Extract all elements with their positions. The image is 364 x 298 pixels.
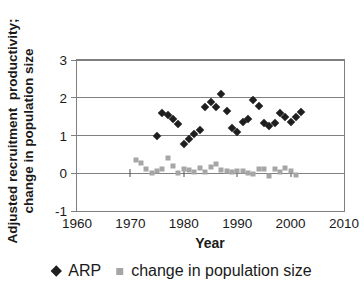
y-axis-tick	[71, 97, 76, 98]
population-point	[219, 168, 224, 173]
population-point	[165, 156, 170, 161]
x-tick-label: 2010	[329, 216, 359, 231]
population-point	[203, 170, 208, 175]
arp-point	[153, 131, 161, 139]
gridline-y3	[77, 60, 344, 61]
y-axis-title-line1: Adjusted recruitment productivity;	[5, 3, 21, 259]
population-point	[176, 171, 181, 176]
gridline-y0	[77, 173, 344, 174]
population-point	[283, 165, 288, 170]
legend-item-population: change in population size	[116, 262, 312, 280]
population-point	[256, 167, 261, 172]
x-tick-label: 2000	[276, 216, 306, 231]
arp-diamond-icon	[51, 265, 62, 276]
y-axis-tick	[71, 60, 76, 61]
population-square-icon	[116, 268, 123, 275]
arp-point	[254, 102, 262, 110]
x-tick-label: 1990	[222, 216, 252, 231]
legend-label-population: change in population size	[131, 262, 312, 280]
gridline-y1	[77, 135, 344, 136]
arp-point	[222, 107, 230, 115]
population-point	[160, 167, 165, 172]
y-axis-tick	[71, 173, 76, 174]
population-point	[267, 174, 272, 179]
x-tick-label: 1960	[62, 216, 92, 231]
x-axis-cross-tick	[130, 169, 131, 177]
population-point	[192, 169, 197, 174]
population-point	[288, 168, 293, 173]
population-point	[139, 160, 144, 165]
x-axis-title: Year	[195, 235, 225, 251]
legend-label-arp: ARP	[68, 262, 101, 280]
population-point	[197, 165, 202, 170]
population-point	[251, 172, 256, 177]
population-point	[149, 171, 154, 176]
population-point	[245, 171, 250, 176]
legend: ARP change in population size	[52, 262, 311, 280]
population-point	[187, 168, 192, 173]
population-point	[261, 166, 266, 171]
y-tick-label: 2	[59, 90, 67, 105]
population-point	[277, 169, 282, 174]
y-axis-tick	[71, 211, 76, 212]
population-point	[293, 172, 298, 177]
population-point	[181, 166, 186, 171]
y-axis-tick	[71, 135, 76, 136]
population-point	[144, 167, 149, 172]
population-point	[213, 162, 218, 167]
population-point	[133, 158, 138, 163]
x-tick-label: 1970	[115, 216, 145, 231]
population-point	[171, 163, 176, 168]
population-point	[240, 169, 245, 174]
population-point	[208, 164, 213, 169]
legend-item-arp: ARP	[52, 262, 101, 280]
chart-figure: Adjusted recruitment productivity; chang…	[0, 0, 364, 298]
y-tick-label: 0	[59, 166, 67, 181]
arp-point	[174, 120, 182, 128]
y-tick-label: 3	[59, 53, 67, 68]
x-tick-label: 1980	[169, 216, 199, 231]
population-point	[224, 168, 229, 173]
plot-area: 3210-1196019701980199020002010	[76, 59, 345, 212]
gridline-y-1	[77, 211, 344, 212]
population-point	[229, 170, 234, 175]
y-axis-title-line2: change in population size	[21, 3, 37, 259]
y-axis-title: Adjusted recruitment productivity; chang…	[5, 3, 37, 259]
population-point	[272, 167, 277, 172]
population-point	[235, 168, 240, 173]
y-tick-label: 1	[59, 128, 67, 143]
population-point	[155, 168, 160, 173]
